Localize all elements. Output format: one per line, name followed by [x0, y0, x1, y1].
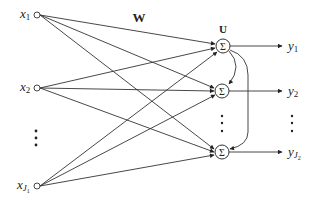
input-label-2: x2	[19, 79, 30, 95]
input-node-1	[34, 12, 40, 18]
output-label-1: y1	[286, 38, 298, 54]
ellipsis-dots	[35, 115, 294, 147]
sum-symbol-2: Σ	[219, 86, 225, 97]
input-connections	[40, 15, 217, 186]
sum-nodes	[215, 39, 230, 159]
input-label-j1: xJ1	[16, 177, 30, 194]
output-label-2: y2	[286, 83, 298, 99]
input-labels: x1 x2 xJ1	[16, 6, 30, 194]
weight-label-u: U	[219, 23, 227, 35]
input-node-j1	[34, 183, 40, 189]
sum-symbol-j2: Σ	[219, 147, 225, 158]
recurrent-connections	[229, 50, 248, 149]
output-arrows	[229, 46, 282, 152]
output-label-j2: yJ2	[286, 144, 301, 161]
network-svg: Σ Σ Σ W U x1 x2 xJ1 y1 y2 yJ2	[0, 0, 315, 201]
weight-label-w: W	[133, 10, 146, 25]
input-nodes	[34, 12, 40, 189]
sum-symbol-1: Σ	[220, 41, 226, 52]
output-labels: y1 y2 yJ2	[286, 38, 301, 161]
input-node-2	[34, 85, 40, 91]
input-label-1: x1	[19, 6, 30, 22]
neural-network-diagram: Σ Σ Σ W U x1 x2 xJ1 y1 y2 yJ2	[0, 0, 315, 201]
sum-symbols: Σ Σ Σ	[219, 41, 226, 158]
